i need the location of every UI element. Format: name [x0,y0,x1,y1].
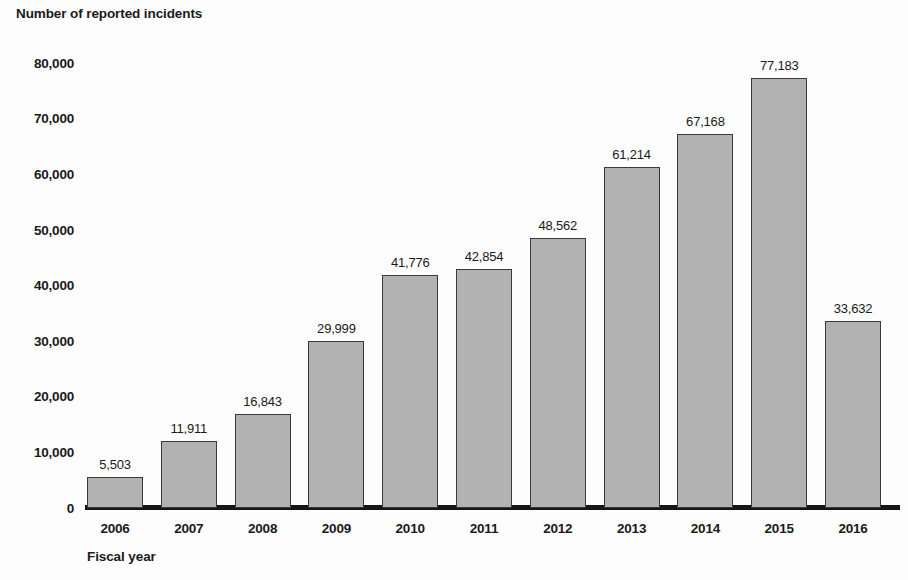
x-tick-label: 2016 [798,521,908,536]
bar-value-label: 5,503 [55,457,175,472]
bar[interactable] [604,167,660,507]
bar-group: 16,843 [235,0,291,508]
bar-value-label: 77,183 [719,58,839,73]
bar-group: 11,911 [161,0,217,508]
y-tick-label: 60,000 [34,166,74,181]
bar-value-label: 33,632 [793,301,908,316]
bar-group: 48,562 [530,0,586,508]
bar[interactable] [456,269,512,507]
x-axis-title: Fiscal year [87,549,156,564]
y-tick-label: 70,000 [34,111,74,126]
bar-group: 61,214 [604,0,660,508]
bar-group: 42,854 [456,0,512,508]
y-axis: 010,00020,00030,00040,00050,00060,00070,… [0,0,87,580]
bar-value-label: 16,843 [203,394,323,409]
bar-value-label: 11,911 [129,421,249,436]
y-tick-label: 40,000 [34,278,74,293]
bar-chart-figure: Number of reported incidents 010,00020,0… [0,0,908,580]
bar[interactable] [308,341,364,508]
y-tick-label: 0 [67,500,74,515]
bar-value-label: 29,999 [276,321,396,336]
bar-group: 29,999 [308,0,364,508]
y-tick-label: 80,000 [34,55,74,70]
bar-value-label: 67,168 [645,114,765,129]
bar[interactable] [530,238,586,508]
y-tick-label: 50,000 [34,222,74,237]
bar[interactable] [751,78,807,507]
y-tick-label: 30,000 [34,333,74,348]
bar[interactable] [382,275,438,507]
bar-value-label: 42,854 [424,249,544,264]
bar-group: 77,183 [751,0,807,508]
bar[interactable] [677,134,733,507]
bar-group: 67,168 [677,0,733,508]
bar-value-label: 61,214 [572,147,692,162]
bar[interactable] [87,477,143,508]
bar[interactable] [161,441,217,507]
bar-group: 33,632 [825,0,881,508]
bar[interactable] [825,321,881,508]
y-tick-label: 20,000 [34,389,74,404]
bar-value-label: 48,562 [498,218,618,233]
bar[interactable] [235,414,291,508]
